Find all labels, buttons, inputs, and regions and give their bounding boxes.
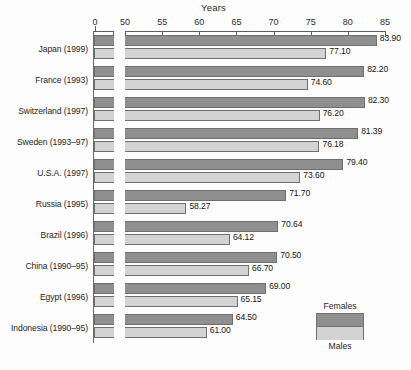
bar-value-label: 66.70 (249, 263, 273, 273)
stub-segment-males (94, 110, 114, 121)
bar-females (125, 190, 286, 201)
x-tick-label-50: 50 (120, 17, 130, 27)
stub-row-group (93, 95, 114, 126)
bar-value-label: 69.00 (266, 281, 290, 291)
bar-value-label: 65.15 (238, 294, 262, 304)
bar-row-group: 79.4073.60 (125, 157, 385, 188)
bar-females (125, 128, 358, 139)
bar-females (125, 35, 377, 46)
category-label: U.S.A. (1997) (0, 157, 92, 188)
x-tick-label-80: 80 (343, 17, 353, 27)
life-expectancy-bar-chart: Years 05055606570758085 Japan (1999)Fran… (0, 0, 411, 370)
bar-value-label: 82.30 (365, 95, 389, 105)
bar-females (125, 66, 364, 77)
stub-segment-females (94, 252, 114, 263)
bar-row-group: 83.9077.10 (125, 33, 385, 64)
axis-title: Years (0, 2, 411, 13)
bar-value-label: 83.90 (377, 33, 401, 43)
category-label: Russia (1995) (0, 188, 92, 219)
bar-value-label: 58.27 (186, 201, 210, 211)
legend-label-males: Males (316, 341, 364, 352)
bar-females (125, 221, 278, 232)
bar-females (125, 314, 233, 325)
bar-males (125, 172, 300, 183)
bar-row-group: 81.3976.18 (125, 126, 385, 157)
bar-value-label: 73.60 (300, 170, 324, 180)
category-label: Sweden (1993–97) (0, 126, 92, 157)
x-tick-0 (95, 26, 96, 32)
category-labels: Japan (1999)France (1993)Switzerland (19… (0, 33, 92, 343)
stub-segment-males (94, 296, 114, 307)
bar-origin-stub-column (93, 33, 114, 343)
bar-males (125, 110, 320, 121)
stub-segment-females (94, 128, 114, 139)
bar-value-label: 71.70 (286, 188, 310, 198)
axis-cap-1 (113, 31, 114, 36)
legend-swatch-box (316, 313, 364, 340)
category-label: Switzerland (1997) (0, 95, 92, 126)
bar-females (125, 159, 343, 170)
plot-area: 83.9077.1082.2074.6082.3076.2081.3976.18… (125, 33, 385, 343)
bar-value-label: 70.64 (278, 219, 302, 229)
stub-segment-females (94, 314, 114, 325)
axis-cap-0 (93, 31, 94, 36)
stub-segment-females (94, 221, 114, 232)
category-label: France (1993) (0, 64, 92, 95)
axis-cap-2 (125, 31, 126, 36)
bar-value-label: 76.20 (320, 108, 344, 118)
bar-value-label: 76.18 (319, 139, 343, 149)
bar-males (125, 48, 326, 59)
stub-row-group (93, 188, 114, 219)
stub-segment-males (94, 203, 114, 214)
category-label: China (1990–95) (0, 250, 92, 281)
stub-segment-females (94, 97, 114, 108)
bar-value-label: 64.50 (233, 312, 257, 322)
bar-row-group: 70.6464.12 (125, 219, 385, 250)
x-tick-label-55: 55 (157, 17, 167, 27)
x-axis-line-main (125, 31, 385, 32)
x-tick-label-70: 70 (269, 17, 279, 27)
stub-row-group (93, 219, 114, 250)
stub-segment-males (94, 234, 114, 245)
x-axis-line-stub (93, 31, 114, 32)
legend-swatch-males (317, 327, 363, 340)
x-axis-tick-labels: 05055606570758085 (0, 17, 411, 29)
bar-value-label: 81.39 (358, 126, 382, 136)
x-tick-label-85: 85 (380, 17, 390, 27)
stub-segment-females (94, 35, 114, 46)
bar-females (125, 283, 266, 294)
stub-segment-males (94, 141, 114, 152)
stub-row-group (93, 126, 114, 157)
bar-males (125, 141, 319, 152)
bar-males (125, 296, 238, 307)
axis-cap-3 (385, 31, 386, 36)
stub-segment-females (94, 66, 114, 77)
stub-row-group (93, 250, 114, 281)
bar-value-label: 70.50 (277, 250, 301, 260)
stub-segment-females (94, 190, 114, 201)
stub-row-group (93, 33, 114, 64)
bar-males (125, 203, 186, 214)
bar-value-label: 82.20 (364, 64, 388, 74)
x-tick-label-65: 65 (231, 17, 241, 27)
stub-segment-males (94, 327, 114, 338)
stub-segment-males (94, 79, 114, 90)
bar-males (125, 234, 230, 245)
stub-segment-females (94, 159, 114, 170)
legend: Females Males (316, 301, 364, 352)
bar-row-group: 82.3076.20 (125, 95, 385, 126)
x-tick-label-60: 60 (194, 17, 204, 27)
category-label: Egypt (1996) (0, 281, 92, 312)
category-label: Brazil (1996) (0, 219, 92, 250)
bar-row-group: 82.2074.60 (125, 64, 385, 95)
category-label: Indonesia (1990–95) (0, 312, 92, 343)
bar-males (125, 265, 249, 276)
bar-row-group: 71.7058.27 (125, 188, 385, 219)
legend-swatch-females (317, 314, 363, 327)
stub-row-group (93, 64, 114, 95)
bar-value-label: 61.00 (207, 325, 231, 335)
bar-males (125, 327, 207, 338)
stub-segment-females (94, 283, 114, 294)
bar-value-label: 79.40 (343, 157, 367, 167)
stub-row-group (93, 157, 114, 188)
